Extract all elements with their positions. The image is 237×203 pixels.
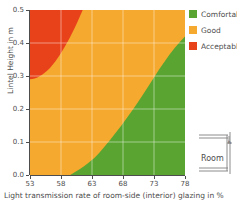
y-axis-title: Lintel Height in m	[6, 21, 15, 101]
room-schematic-inset: Room h	[198, 130, 237, 176]
y-tick-mark	[26, 175, 29, 176]
y-tick-mark	[26, 142, 29, 143]
y-tick-label-0.4: 0.4	[13, 39, 24, 47]
y-tick-label-0.0: 0.0	[13, 171, 24, 179]
legend-swatch-good	[189, 26, 197, 34]
y-tick-mark	[26, 76, 29, 77]
x-axis-title: Light transmission rate of room-side (in…	[4, 191, 194, 200]
y-tick-mark	[26, 43, 29, 44]
y-axis-line	[29, 10, 30, 175]
x-tick-label-53: 53	[26, 180, 35, 188]
x-tick-mark	[61, 176, 62, 179]
room-inset-label: Room	[201, 154, 224, 164]
x-tick-label-63: 63	[88, 180, 97, 188]
legend-swatch-comfortable	[189, 10, 197, 18]
plot-area	[30, 10, 185, 175]
y-tick-label-0.1: 0.1	[13, 138, 24, 146]
x-axis-line	[30, 175, 185, 176]
x-tick-mark	[92, 176, 93, 179]
legend-swatch-acceptable	[189, 42, 197, 50]
x-tick-mark	[185, 176, 186, 179]
legend-label-acceptable: Acceptable	[201, 42, 237, 51]
legend-item-good[interactable]: Good	[189, 24, 237, 36]
legend-item-comfortable[interactable]: Comfortable	[189, 8, 237, 20]
x-tick-mark	[123, 176, 124, 179]
legend-label-good: Good	[201, 26, 221, 35]
comfort-regions	[30, 10, 185, 175]
y-tick-label-0.5: 0.5	[13, 6, 24, 14]
x-tick-label-58: 58	[57, 180, 66, 188]
legend: Comfortable Good Acceptable	[189, 8, 237, 56]
legend-item-acceptable[interactable]: Acceptable	[189, 40, 237, 52]
x-tick-label-78: 78	[181, 180, 190, 188]
y-tick-mark	[26, 109, 29, 110]
x-tick-label-73: 73	[150, 180, 159, 188]
x-tick-mark	[30, 176, 31, 179]
y-tick-mark	[26, 10, 29, 11]
x-tick-mark	[154, 176, 155, 179]
x-tick-label-68: 68	[119, 180, 128, 188]
y-tick-label-0.2: 0.2	[13, 105, 24, 113]
legend-label-comfortable: Comfortable	[201, 10, 237, 19]
room-schematic-svg	[198, 130, 237, 176]
chart-figure: 53 58 63 68 73 78 0.0 0.1 0.2 0.3 0.4 0.…	[0, 0, 237, 203]
room-inset-dimension-label: h	[228, 140, 231, 145]
y-tick-label-0.3: 0.3	[13, 72, 24, 80]
